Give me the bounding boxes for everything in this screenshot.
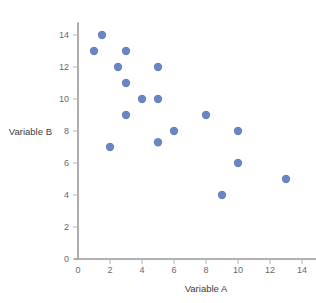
x-axis-title: Variable A <box>185 283 228 294</box>
x-tick-label: 6 <box>171 265 176 275</box>
data-point <box>234 127 242 135</box>
data-point <box>154 138 162 146</box>
x-tick-label: 12 <box>265 265 275 275</box>
x-tick-label: 2 <box>107 265 112 275</box>
data-point <box>218 191 226 199</box>
y-axis-group: 02468101214 <box>59 22 78 264</box>
data-point <box>282 175 290 183</box>
x-axis-tick-labels: 02468101214 <box>75 265 307 275</box>
data-point <box>106 143 114 151</box>
x-tick-label: 4 <box>139 265 144 275</box>
data-point <box>154 95 162 103</box>
scatter-chart: 02468101214 02468101214 Variable A Varia… <box>0 0 316 303</box>
data-point-group <box>90 31 290 199</box>
y-tick-label: 12 <box>59 62 69 72</box>
x-tick-label: 0 <box>75 265 80 275</box>
data-point <box>90 47 98 55</box>
y-tick-label: 6 <box>64 158 69 168</box>
y-tick-label: 8 <box>64 126 69 136</box>
data-point <box>122 47 130 55</box>
plot-area: 02468101214 02468101214 Variable A Varia… <box>0 0 316 303</box>
y-tick-label: 10 <box>59 94 69 104</box>
data-point <box>114 63 122 71</box>
data-point <box>202 111 210 119</box>
data-point <box>138 95 146 103</box>
y-axis-title: Variable B <box>9 126 52 137</box>
y-tick-label: 0 <box>64 254 69 264</box>
y-tick-label: 4 <box>64 190 69 200</box>
y-tick-label: 2 <box>64 222 69 232</box>
data-point <box>122 79 130 87</box>
data-point <box>154 63 162 71</box>
x-tick-label: 8 <box>203 265 208 275</box>
x-tick-label: 10 <box>233 265 243 275</box>
data-point <box>170 127 178 135</box>
data-point <box>98 31 106 39</box>
x-tick-label: 14 <box>297 265 307 275</box>
y-tick-label: 14 <box>59 30 69 40</box>
data-point <box>122 111 130 119</box>
x-axis-group: 02468101214 <box>74 259 316 275</box>
data-point <box>234 159 242 167</box>
y-axis-tick-labels: 02468101214 <box>59 30 69 264</box>
